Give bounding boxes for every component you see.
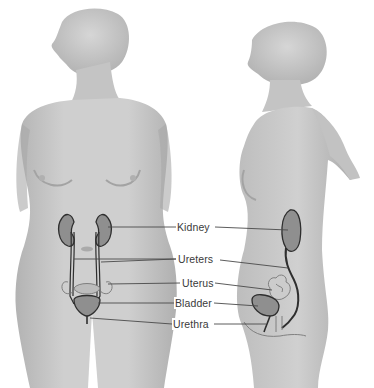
side-kidney (282, 210, 301, 251)
front-head (52, 8, 129, 74)
side-view-figure (237, 22, 360, 388)
front-view-figure (15, 8, 176, 388)
label-kidney: Kidney (176, 221, 211, 233)
label-ureters: Ureters (177, 253, 214, 265)
label-uterus: Uterus (181, 277, 215, 289)
label-urethra: Urethra (172, 318, 210, 330)
label-bladder: Bladder (174, 297, 213, 309)
side-head (248, 22, 327, 85)
